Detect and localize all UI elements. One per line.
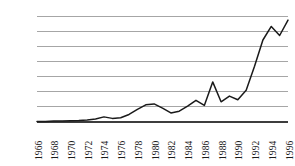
x-tick-label: 1972 [84,141,94,160]
x-tick-label: 1996 [285,141,295,160]
x-tick-label: 1984 [184,141,194,160]
x-tick-label: 1992 [251,141,261,160]
x-tick-label: 1980 [151,141,161,160]
x-tick-label: 1974 [100,141,110,160]
x-tick-label: 1968 [50,141,60,160]
x-tick-label: 1970 [67,141,77,160]
x-tick-label: 1976 [117,141,127,160]
x-tick-label: 1966 [34,141,44,160]
x-tick-label: 1986 [201,141,211,160]
x-tick-label: 1978 [134,141,144,160]
x-tick-label: 1990 [234,141,244,160]
x-tick-label: 1994 [268,141,278,160]
x-tick-label: 1988 [218,141,228,160]
line-chart: 3.503.002.502.001.501.000.500 1966196819… [0,0,295,166]
x-tick-label: 1982 [167,141,177,160]
x-axis-tick-labels: 1966196819701972197419761978198019821984… [0,0,295,166]
